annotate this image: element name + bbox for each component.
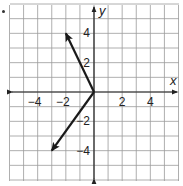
y-tick-label: −4 (76, 144, 90, 158)
x-tick-label: 4 (147, 95, 154, 109)
coordinate-plane-figure: −4−22442−2−4 x y (0, 0, 183, 186)
problem-marker-dot (2, 10, 5, 13)
coordinate-plane: −4−22442−2−4 x y (0, 0, 183, 186)
x-tick-label: 2 (119, 95, 126, 109)
axis-labels: x y (98, 3, 177, 88)
x-axis-label: x (169, 73, 177, 88)
y-tick-label: −2 (76, 114, 90, 128)
y-axis-label: y (98, 3, 107, 18)
x-tick-label: −2 (56, 95, 70, 109)
x-tick-label: −4 (28, 95, 42, 109)
y-tick-label: 4 (83, 26, 90, 40)
y-tick-label: 2 (83, 56, 90, 70)
